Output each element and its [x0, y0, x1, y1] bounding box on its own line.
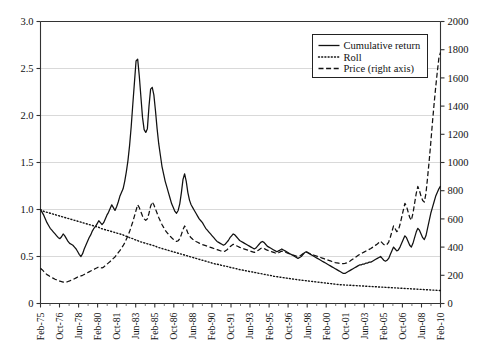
- tick-label-x: Feb-85: [149, 312, 160, 340]
- tick-label-x: Oct-81: [111, 312, 122, 339]
- tick-label-x: Jun-93: [244, 312, 255, 339]
- legend-label: Cumulative return: [344, 40, 421, 51]
- legend-label: Roll: [344, 52, 362, 63]
- tick-label-left: 3.0: [20, 16, 33, 27]
- tick-label-right: 400: [448, 242, 464, 253]
- tick-label-right: 2000: [448, 16, 469, 27]
- tick-label-x: Feb-05: [378, 312, 389, 340]
- tick-label-left: 2.5: [20, 63, 33, 74]
- series-line-dashed: [41, 53, 441, 283]
- tick-label-left: 1.5: [20, 157, 33, 168]
- tick-label-x: Oct-86: [168, 312, 179, 339]
- tick-label-x: Feb-95: [264, 312, 275, 340]
- line-chart: 00.51.01.52.02.53.0020040060080010001200…: [0, 0, 491, 362]
- tick-label-x: Oct-96: [283, 312, 294, 339]
- tick-label-left: 0.5: [20, 251, 33, 262]
- tick-label-x: Jun-03: [359, 312, 370, 339]
- tick-label-left: 2.0: [20, 110, 33, 121]
- tick-label-right: 1600: [448, 73, 469, 84]
- tick-label-x: Feb-75: [35, 312, 46, 340]
- tick-label-right: 200: [448, 270, 464, 281]
- tick-label-left: 0: [28, 298, 33, 309]
- series-line-solid: [41, 59, 441, 273]
- tick-label-x: Feb-10: [435, 312, 446, 340]
- tick-label-x: Jun-08: [416, 312, 427, 339]
- tick-label-right: 1400: [448, 101, 469, 112]
- tick-label-x: Jun-83: [130, 312, 141, 339]
- tick-label-x: Jun-98: [302, 312, 313, 339]
- tick-label-left: 1.0: [20, 204, 33, 215]
- tick-label-x: Oct-06: [397, 312, 408, 339]
- tick-label-x: Jun-78: [73, 312, 84, 339]
- tick-label-x: Feb-00: [321, 312, 332, 340]
- series-line-dotted: [41, 210, 441, 291]
- tick-label-x: Oct-01: [340, 312, 351, 339]
- legend-label: Price (right axis): [344, 63, 415, 75]
- tick-label-x: Oct-76: [54, 312, 65, 339]
- tick-label-x: Feb-90: [206, 312, 217, 340]
- tick-label-right: 0: [448, 298, 453, 309]
- tick-label-right: 1800: [448, 44, 469, 55]
- tick-label-right: 1200: [448, 129, 469, 140]
- chart-container: 00.51.01.52.02.53.0020040060080010001200…: [0, 0, 491, 362]
- tick-label-right: 800: [448, 185, 464, 196]
- tick-label-x: Oct-91: [225, 312, 236, 339]
- tick-label-x: Jun-88: [187, 312, 198, 339]
- tick-label-x: Feb-80: [92, 312, 103, 340]
- tick-label-right: 600: [448, 214, 464, 225]
- tick-label-right: 1000: [448, 157, 469, 168]
